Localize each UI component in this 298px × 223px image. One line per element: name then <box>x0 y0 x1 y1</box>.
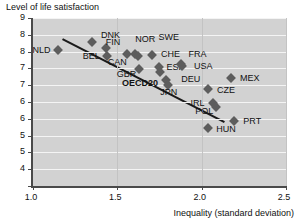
y-axis-tick-label: 9 <box>7 12 25 22</box>
x-axis-tick-label: 1.5 <box>100 192 130 202</box>
y-axis-tick <box>28 85 32 86</box>
data-point-label: CHE <box>161 49 180 59</box>
data-point-label: DEU <box>181 74 200 84</box>
data-point-label: POL <box>195 106 213 116</box>
y-axis-tick <box>28 169 32 170</box>
plot-area: NLDDNKFINBELCANNORSWECHEGBRESPFRAUSAOECD… <box>31 18 286 188</box>
data-point-label: MEX <box>240 73 260 83</box>
y-axis-tick <box>28 68 32 69</box>
gridline-horizontal <box>33 136 286 137</box>
x-axis-tick-label: 2.5 <box>269 192 298 202</box>
y-axis-tick-label: 6 <box>7 96 25 106</box>
y-axis-title: Level of life satisfaction <box>6 2 99 12</box>
chart-container: Level of life satisfaction Inequality (s… <box>0 0 298 223</box>
y-axis-tick-label: 7 <box>7 62 25 72</box>
y-axis-tick-label: 4 <box>7 163 25 173</box>
data-point-label: FIN <box>106 37 121 47</box>
gridline-horizontal <box>33 102 286 103</box>
data-point-label: BEL <box>83 51 100 61</box>
y-axis-tick-label: 8 <box>7 46 25 56</box>
gridline-horizontal <box>33 52 286 53</box>
x-axis-tick <box>117 186 118 190</box>
y-axis-tick <box>28 52 32 53</box>
y-axis-tick <box>28 35 32 36</box>
gridline-vertical <box>286 18 287 186</box>
gridline-horizontal <box>33 169 286 170</box>
y-axis-tick-label: 5 <box>7 146 25 156</box>
y-axis-tick <box>28 119 32 120</box>
data-point-label: NLD <box>32 45 50 55</box>
gridline-horizontal <box>33 18 286 19</box>
x-axis-tick-label: 1.0 <box>16 192 46 202</box>
y-axis-tick-label: 7 <box>7 79 25 89</box>
data-point-label: OECD20 <box>122 78 158 88</box>
data-point-label: HUN <box>216 124 236 134</box>
data-point-label: NOR <box>135 34 155 44</box>
y-axis-tick <box>28 152 32 153</box>
gridline-horizontal <box>33 152 286 153</box>
data-point-label: PRT <box>243 116 261 126</box>
x-axis-tick-label: 2.0 <box>185 192 215 202</box>
data-point-label: CAN <box>108 57 127 67</box>
data-point-label: JPN <box>160 87 177 97</box>
y-axis-tick <box>28 136 32 137</box>
data-point-label: USA <box>194 61 213 71</box>
data-point-label: CZE <box>217 85 235 95</box>
x-axis-title: Inequality (standard deviation) <box>173 208 294 218</box>
y-axis-tick <box>28 102 32 103</box>
data-point-label: SWE <box>159 32 180 42</box>
y-axis-tick-label: 6 <box>7 113 25 123</box>
y-axis-tick <box>28 18 32 19</box>
x-axis-tick <box>286 186 287 190</box>
y-axis-tick <box>28 186 32 187</box>
data-point-label: FRA <box>188 49 206 59</box>
x-axis-tick <box>33 186 34 190</box>
y-axis-tick-label: 8 <box>7 29 25 39</box>
y-axis-tick-label: 5 <box>7 130 25 140</box>
x-axis-tick <box>202 186 203 190</box>
